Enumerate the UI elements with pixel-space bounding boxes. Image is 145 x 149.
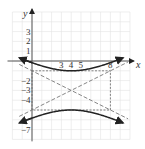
- svg-text:−4: −4: [21, 95, 31, 105]
- x-axis-label: x: [135, 59, 141, 70]
- svg-text:4: 4: [69, 60, 74, 70]
- svg-text:−2: −2: [21, 76, 31, 86]
- svg-text:5: 5: [79, 60, 84, 70]
- hyperbola-branch: [20, 110, 123, 123]
- hyperbola-chart: 3458321−2−3−4−7 x y: [0, 0, 145, 149]
- svg-text:2: 2: [26, 36, 31, 46]
- y-axis-label: y: [22, 8, 28, 19]
- svg-text:−3: −3: [21, 85, 31, 95]
- svg-text:−7: −7: [21, 125, 31, 135]
- svg-text:3: 3: [26, 27, 31, 37]
- svg-text:8: 8: [108, 60, 113, 70]
- svg-text:3: 3: [59, 60, 64, 70]
- svg-text:1: 1: [26, 46, 31, 56]
